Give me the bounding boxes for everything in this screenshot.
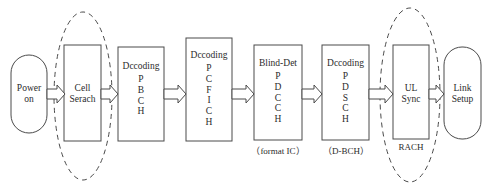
node-cell-search — [64, 45, 101, 141]
edge-blind-det-pdcch-to-decoding-pdsch — [302, 85, 322, 103]
node-link-setup — [444, 47, 481, 139]
edge-decoding-pdsch-to-ul-sync — [369, 85, 393, 103]
node-blind-det-pdcch — [254, 45, 302, 140]
edge-decoding-pcfich-to-blind-det-pdcch — [232, 85, 254, 103]
node-decoding-pcfich — [186, 38, 232, 141]
node-power-on — [11, 55, 47, 133]
edge-power-on-to-cell-search — [47, 85, 65, 103]
node-ul-sync — [393, 45, 429, 139]
node-decoding-pbch — [118, 47, 164, 141]
flowchart-canvas — [0, 0, 483, 187]
flowchart-diagram: Power on Cell Serach Dccoding PBCH Dccod… — [0, 0, 483, 187]
edge-decoding-pbch-to-decoding-pcfich — [164, 85, 186, 103]
node-decoding-pdsch — [322, 45, 369, 140]
edge-cell-search-to-decoding-pbch — [101, 85, 118, 103]
edge-ul-sync-to-link-setup — [429, 85, 444, 103]
